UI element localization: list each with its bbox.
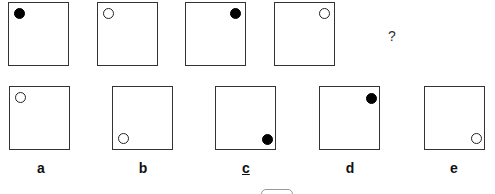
option-c-label[interactable]: c [236,160,256,176]
option-a-frame[interactable] [9,86,70,150]
sequence-frame-2 [97,2,158,66]
hollow-dot-icon [471,133,482,144]
hollow-dot-icon [118,133,129,144]
hollow-dot-icon [319,8,330,19]
filled-dot-icon [230,8,241,19]
filled-dot-icon [14,8,25,19]
option-e-label[interactable]: e [444,160,464,176]
sequence-frame-3 [185,2,246,66]
hollow-dot-icon [15,92,26,103]
option-a-label[interactable]: a [31,160,51,176]
option-d-frame[interactable] [319,86,380,150]
option-b-label[interactable]: b [133,160,153,176]
option-c-frame[interactable] [215,86,276,150]
filled-dot-icon [262,134,273,145]
filled-dot-icon [366,93,377,104]
answer-button[interactable] [261,189,293,194]
question-mark: ? [388,28,396,44]
option-b-frame[interactable] [112,86,173,150]
option-e-frame[interactable] [424,86,485,150]
hollow-dot-icon [103,8,114,19]
sequence-frame-1 [8,2,69,66]
option-d-label[interactable]: d [340,160,360,176]
sequence-frame-4 [274,2,335,66]
